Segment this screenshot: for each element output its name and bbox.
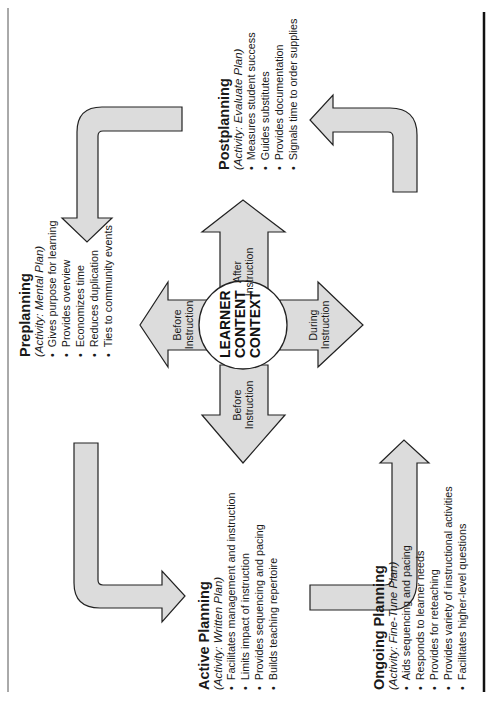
preplanning-activity: (Activity: Mental Plan)	[33, 246, 45, 357]
svg-text:•Gives purpose for learning: •Gives purpose for learning	[46, 221, 58, 357]
svg-text:•Responds to learner needs: •Responds to learner needs	[414, 550, 426, 690]
list-item: Gives purpose for learning	[46, 221, 58, 348]
svg-text:Instruction: Instruction	[319, 301, 331, 350]
svg-text:Instruction: Instruction	[183, 301, 195, 350]
svg-text:•Aids sequencing and pacing: •Aids sequencing and pacing	[400, 545, 412, 690]
active-planning-title: Active Planning	[196, 581, 212, 690]
cycle-arrow-top-right	[310, 95, 417, 192]
list-item: Measures student success	[245, 32, 257, 160]
list-item: Guides substitutes	[259, 71, 271, 160]
preplanning-title: Preplanning	[17, 273, 33, 357]
svg-text:•Ties to community events: •Ties to community events	[102, 225, 114, 357]
list-item: Provides documentation	[273, 44, 285, 160]
center-line-content: CONTENT	[232, 290, 248, 358]
svg-text:Instruction: Instruction	[243, 381, 255, 430]
list-item: Facilitates management and instruction	[225, 492, 237, 680]
svg-text:•Limits impact of instruction: •Limits impact of instruction	[239, 553, 251, 690]
center-line-learner: LEARNER	[217, 290, 233, 358]
svg-text:•Builds teaching repertoire: •Builds teaching repertoire	[267, 558, 279, 690]
active-planning-block: Active Planning (Activity: Written Plan)…	[196, 492, 279, 690]
center-line-context: CONTEXT	[247, 291, 263, 358]
svg-text:•Provides sequencing and pacin: •Provides sequencing and pacing	[253, 524, 265, 690]
svg-text:Before: Before	[171, 309, 183, 340]
svg-text:•Reduces duplication: •Reduces duplication	[88, 250, 100, 357]
svg-text:•Provides for reteaching: •Provides for reteaching	[428, 569, 440, 690]
list-item: Provides variety of instructional activi…	[442, 486, 454, 680]
active-planning-activity: (Activity: Written Plan)	[212, 577, 224, 690]
list-item: Economizes time	[74, 265, 86, 347]
svg-text:•Provides documentation: •Provides documentation	[273, 44, 285, 170]
preplanning-block: Preplanning (Activity: Mental Plan) •Giv…	[17, 221, 114, 357]
svg-text:During: During	[307, 309, 319, 340]
list-item: Reduces duplication	[88, 250, 100, 347]
list-item: Builds teaching repertoire	[267, 558, 279, 680]
center-label: LEARNER CONTENT CONTEXT	[217, 290, 263, 358]
list-item: Signals time to order supplies	[287, 18, 299, 160]
list-item: Ties to community events	[102, 225, 114, 348]
postplanning-items: •Measures student success •Guides substi…	[245, 18, 299, 170]
postplanning-title: Postplanning	[216, 78, 232, 170]
ongoing-planning-activity: (Activity: Fine-Tune Plan)	[387, 562, 399, 690]
list-item: Provides overview	[60, 259, 72, 347]
svg-text:•Measures student success: •Measures student success	[245, 32, 257, 170]
ongoing-planning-title: Ongoing Planning	[371, 565, 387, 690]
svg-text:Instruction: Instruction	[243, 248, 255, 297]
svg-text:•Provides variety of instructi: •Provides variety of instructional activ…	[442, 486, 454, 690]
active-planning-items: •Facilitates management and instruction …	[225, 492, 279, 690]
svg-text:•Economizes time: •Economizes time	[74, 265, 86, 357]
svg-text:After: After	[231, 260, 243, 283]
postplanning-block: Postplanning (Activity: Evaluate Plan) •…	[216, 18, 299, 170]
svg-text:Before: Before	[231, 389, 243, 420]
list-item: Responds to learner needs	[414, 550, 426, 680]
preplanning-items: •Gives purpose for learning •Provides ov…	[46, 221, 114, 357]
ongoing-planning-block: Ongoing Planning (Activity: Fine-Tune Pl…	[371, 486, 468, 690]
list-item: Limits impact of instruction	[239, 553, 251, 680]
planning-cycle-diagram: LEARNER CONTENT CONTEXT After Instructio…	[0, 0, 490, 702]
svg-text:•Facilitates management and in: •Facilitates management and instruction	[225, 492, 237, 690]
svg-text:•Provides overview: •Provides overview	[60, 259, 72, 357]
svg-text:•Guides substitutes: •Guides substitutes	[259, 71, 271, 170]
svg-text:•Facilitates higher-level ques: •Facilitates higher-level questions	[456, 523, 468, 690]
list-item: Facilitates higher-level questions	[456, 523, 468, 680]
postplanning-activity: (Activity: Evaluate Plan)	[232, 48, 244, 170]
list-item: Aids sequencing and pacing	[400, 545, 412, 680]
list-item: Provides sequencing and pacing	[253, 524, 265, 680]
cycle-arrow-bottom-left	[74, 443, 185, 622]
list-item: Provides for reteaching	[428, 569, 440, 680]
svg-text:•Signals time to order supplie: •Signals time to order supplies	[287, 18, 299, 170]
cycle-arrow-top-left	[62, 107, 182, 242]
